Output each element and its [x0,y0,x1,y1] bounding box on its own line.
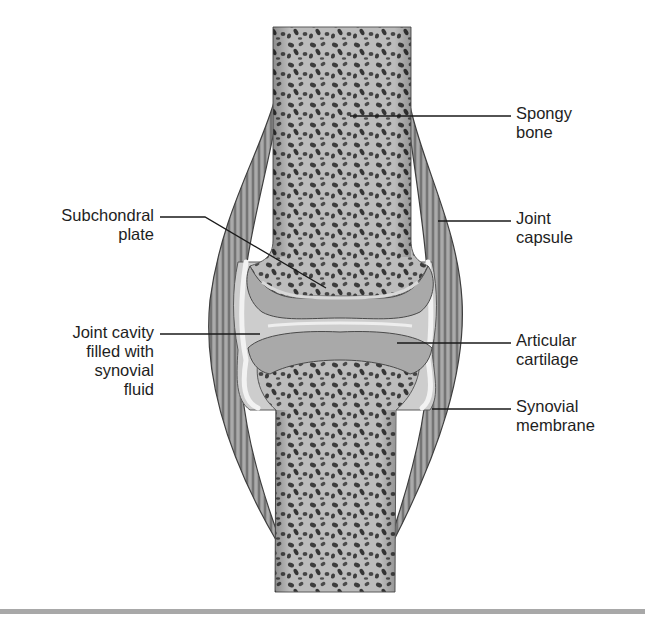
label-articular-cartilage: Articular cartilage [516,331,578,369]
bottom-divider [0,609,645,614]
joint-diagram [0,0,645,622]
label-joint-capsule: Joint capsule [516,209,573,247]
label-subchondral-plate: Subchondral plate [61,206,154,244]
label-joint-cavity: Joint cavity filled with synovial fluid [72,323,154,399]
label-spongy-bone: Spongy bone [516,104,572,142]
label-synovial-membrane: Synovial membrane [516,397,595,435]
